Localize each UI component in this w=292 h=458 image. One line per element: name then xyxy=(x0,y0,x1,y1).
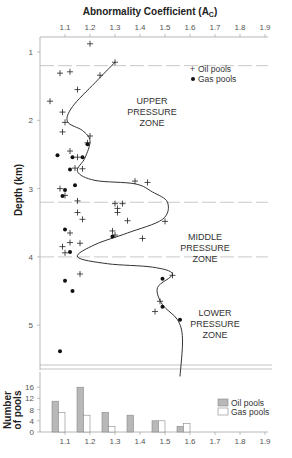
main-legend: + Oil pools Gas pools xyxy=(190,64,236,84)
x-tick-label: 1.2 xyxy=(84,23,96,32)
y-tick-label: 1 xyxy=(29,48,34,57)
y-axis-label-depth: Depth (km) xyxy=(13,164,24,216)
oil-pool-plus-icon xyxy=(60,244,66,250)
x-axis-top-ticks: 1.11.21.31.41.51.61.71.81.9 xyxy=(59,23,271,37)
histogram-y-label-line2: of pools xyxy=(12,390,23,429)
y-tick-label: 4 xyxy=(29,253,34,262)
oil-pool-plus-icon xyxy=(62,250,68,256)
histogram-y-ticks: 0481216 xyxy=(25,383,40,437)
oil-pool-plus-icon xyxy=(120,201,126,207)
gas-pool-dot-icon xyxy=(68,250,72,254)
abnormality-depth-chart: Abnormality Coefficient (AC) 1.11.21.31.… xyxy=(0,0,292,458)
oil-pool-plus-icon xyxy=(75,210,81,216)
oil-pool-plus-icon xyxy=(75,87,81,93)
gas-pool-dot-icon xyxy=(56,153,60,157)
hist-y-tick-label: 0 xyxy=(30,428,35,437)
histogram-bars xyxy=(52,387,190,432)
zone-label-line: MIDDLE xyxy=(188,232,222,242)
hist-x-tick-label: 1.3 xyxy=(109,437,121,446)
legend-oil-swatch xyxy=(218,399,228,406)
gas-pool-dot-icon xyxy=(61,194,65,198)
gas-pool-dot-icon xyxy=(73,183,77,187)
hist-x-tick-label: 1.7 xyxy=(209,437,221,446)
hist-x-tick-label: 1.4 xyxy=(134,437,146,446)
hist-y-tick-label: 4 xyxy=(30,417,35,426)
hist-y-tick-label: 16 xyxy=(25,383,34,392)
chart-title: Abnormality Coefficient (AC) xyxy=(83,6,218,18)
gas-pool-dot-icon xyxy=(86,142,90,146)
oil-pool-plus-icon xyxy=(145,179,151,185)
oil-pool-plus-icon xyxy=(125,218,131,224)
hist-x-tick-label: 1.6 xyxy=(184,437,196,446)
gas-pool-dot-icon xyxy=(161,305,165,309)
gas-pool-bar xyxy=(109,426,116,432)
hist-y-tick-label: 12 xyxy=(25,394,34,403)
oil-pool-bar xyxy=(127,415,134,432)
oil-pool-bar xyxy=(102,412,109,432)
hist-x-tick-label: 1.5 xyxy=(159,437,171,446)
x-tick-label: 1.4 xyxy=(134,23,146,32)
gas-pool-dot-icon xyxy=(63,228,67,232)
gas-pool-dot-icon xyxy=(63,279,67,283)
zone-label-line: ZONE xyxy=(139,118,164,128)
gas-pool-bar xyxy=(59,412,66,432)
hist-y-tick-label: 8 xyxy=(30,406,35,415)
hist-x-tick-label: 1.9 xyxy=(259,437,271,446)
oil-pool-plus-icon xyxy=(67,148,73,154)
zone-boundaries xyxy=(40,66,268,257)
x-tick-label: 1.6 xyxy=(184,23,196,32)
oil-pool-plus-icon xyxy=(57,186,63,192)
gas-pool-markers xyxy=(56,142,183,353)
gas-pool-dot-icon xyxy=(178,318,182,322)
hist-x-tick-label: 1.1 xyxy=(59,437,71,446)
oil-pool-bar xyxy=(152,421,159,432)
gas-pool-dot-icon xyxy=(111,234,115,238)
oil-pool-plus-icon xyxy=(75,198,81,204)
oil-pool-plus-icon xyxy=(140,235,146,241)
x-tick-label: 1.9 xyxy=(259,23,271,32)
x-tick-label: 1.1 xyxy=(59,23,71,32)
oil-pool-bar xyxy=(52,401,59,432)
oil-pool-plus-icon xyxy=(80,166,86,172)
gas-pool-bar xyxy=(159,421,166,432)
gas-pool-bar xyxy=(84,415,91,432)
oil-pool-bar xyxy=(177,426,184,432)
oil-pool-plus-icon xyxy=(77,240,83,246)
oil-pool-plus-icon xyxy=(75,154,81,160)
gas-pool-dot-icon xyxy=(161,277,165,281)
oil-pool-plus-icon xyxy=(87,133,93,139)
y-tick-label: 3 xyxy=(29,185,34,194)
hist-x-tick-label: 1.8 xyxy=(234,437,246,446)
x-tick-label: 1.3 xyxy=(109,23,121,32)
x-tick-label: 1.5 xyxy=(159,23,171,32)
oil-pool-plus-icon xyxy=(80,216,86,222)
oil-pool-bar xyxy=(77,387,84,432)
gas-pool-dot-icon xyxy=(63,188,67,192)
zone-labels: UPPERPRESSUREZONEMIDDLEPRESSUREZONELOWER… xyxy=(127,96,240,340)
hist-x-tick-label: 1.2 xyxy=(84,437,96,446)
oil-pool-plus-icon xyxy=(67,69,73,75)
histogram-x-ticks: 1.11.21.31.41.51.61.71.81.9 xyxy=(59,432,271,446)
zone-label-line: ZONE xyxy=(192,254,217,264)
gas-pool-dot-icon xyxy=(58,349,62,353)
zone-label-line: PRESSURE xyxy=(180,243,230,253)
legend-gas-swatch xyxy=(218,408,228,415)
legend-oil-symbol: + xyxy=(190,64,195,74)
gas-pool-dot-icon xyxy=(68,167,72,171)
oil-pool-markers xyxy=(47,41,176,315)
oil-pool-plus-icon xyxy=(60,109,66,115)
oil-pool-plus-icon xyxy=(57,70,63,76)
legend-oil-label: Oil pools xyxy=(198,64,231,74)
zone-label-line: UPPER xyxy=(136,96,168,106)
oil-pool-plus-icon xyxy=(60,129,66,135)
oil-pool-plus-icon xyxy=(47,98,53,104)
y-axis-depth-ticks: 12345 xyxy=(29,48,40,330)
x-tick-label: 1.7 xyxy=(209,23,221,32)
legend-gas-bar-label: Gas pools xyxy=(231,407,269,417)
oil-pool-plus-icon xyxy=(67,230,73,236)
oil-pool-plus-icon xyxy=(67,240,73,246)
x-tick-label: 1.8 xyxy=(234,23,246,32)
oil-pool-plus-icon xyxy=(77,271,83,277)
gas-pool-bar xyxy=(184,424,191,432)
oil-pool-plus-icon xyxy=(115,210,121,216)
